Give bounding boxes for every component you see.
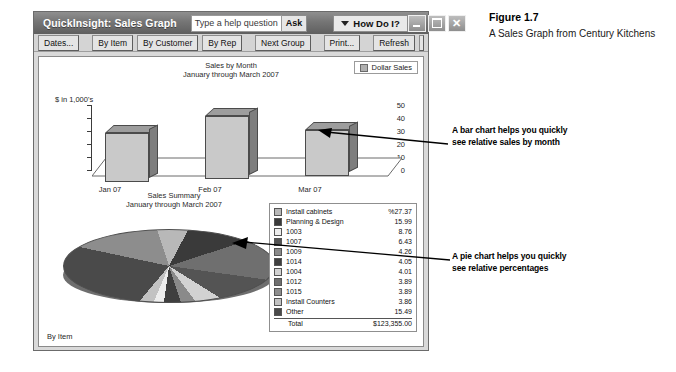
bar-chart-legend[interactable]: Dollar Sales [354, 61, 418, 74]
toolbar-button-next-group[interactable]: Next Group [255, 35, 310, 51]
toolbar-button-by-rep[interactable]: By Rep [202, 35, 242, 51]
legend-item[interactable]: Install cabinets %27.37 [274, 207, 412, 217]
close-icon: ✕ [452, 18, 461, 29]
legend-total-row: Total $123,355.00 [274, 318, 412, 329]
legend-item[interactable]: Other 15.49 [274, 307, 412, 317]
chevron-down-icon [341, 21, 349, 26]
how-do-i-label: How Do I? [353, 18, 399, 29]
figure-number: Figure 1.7 [489, 10, 669, 24]
annotation-pie-line-1: A pie chart helps you quickly [452, 250, 566, 262]
minimize-button[interactable] [408, 15, 426, 32]
bar-front [205, 116, 249, 179]
legend-value: 15.49 [394, 307, 412, 317]
window-title: QuickInsight: Sales Graph [37, 17, 177, 29]
maximize-icon [432, 18, 442, 28]
bar-front [105, 133, 149, 182]
toolbar-button-dates[interactable]: Dates... [38, 35, 79, 51]
annotation-arrow-pie [232, 236, 452, 264]
total-label: Total [274, 319, 373, 329]
toolbar-button-print[interactable]: Print... [324, 35, 361, 51]
toolbar-button-by-customer[interactable]: By Customer [137, 35, 198, 51]
legend-swatch-icon [274, 288, 282, 296]
legend-item[interactable]: 1012 3.89 [274, 277, 412, 287]
legend-label: Planning & Design [286, 217, 394, 227]
legend-label: Install Counters [286, 297, 398, 307]
legend-value: 4.01 [398, 267, 412, 277]
legend-swatch-icon [274, 278, 282, 286]
legend-swatch-icon [274, 228, 282, 236]
y-tick-40: 40 [391, 114, 405, 123]
figure-caption-text: A Sales Graph from Century Kitchens [489, 27, 669, 40]
legend-swatch-icon [274, 218, 282, 226]
bar-chart-panel: Sales by Month January through March 200… [39, 57, 423, 189]
bar-side [249, 108, 258, 175]
bar-side [149, 125, 158, 178]
legend-swatch-icon [360, 64, 368, 72]
legend-item[interactable]: 1004 4.01 [274, 267, 412, 277]
maximize-button[interactable] [428, 15, 446, 32]
pie-chart-subtitle: January through March 2007 [49, 200, 299, 209]
legend-value: 3.89 [398, 277, 412, 287]
annotation-pie-line-2: see relative percentages [452, 262, 566, 274]
y-tick-50: 50 [391, 101, 405, 110]
help-question-input[interactable]: Type a help question [191, 15, 282, 32]
pie-chart-panel: Sales Summary January through March 2007… [39, 189, 423, 345]
legend-swatch-icon [274, 268, 282, 276]
close-button[interactable]: ✕ [448, 15, 466, 32]
ask-button[interactable]: Ask [282, 15, 308, 32]
window-controls: ✕ [408, 15, 468, 32]
legend-label: Install cabinets [286, 207, 388, 217]
toolbar-empty-slot [419, 35, 424, 51]
group-by-label: By Item [47, 332, 72, 341]
title-bar: QuickInsight: Sales Graph Type a help qu… [34, 12, 428, 34]
application-window: QuickInsight: Sales Graph Type a help qu… [33, 11, 429, 351]
pie-chart-title-block: Sales Summary January through March 2007 [49, 189, 299, 209]
toolbar: Dates... By Item By Customer By Rep Next… [34, 34, 428, 52]
annotation-bar-line-2: see relative sales by month [452, 136, 567, 148]
legend-swatch-icon [274, 298, 282, 306]
legend-swatch-icon [274, 208, 282, 216]
minimize-icon [413, 25, 420, 27]
legend-item[interactable]: Planning & Design 15.99 [274, 217, 412, 227]
legend-item[interactable]: Install Counters 3.86 [274, 297, 412, 307]
legend-value: 15.99 [394, 217, 412, 227]
tick-mark [87, 105, 92, 106]
legend-value: 3.89 [398, 287, 412, 297]
legend-item[interactable]: 1015 3.89 [274, 287, 412, 297]
chart-client-area: Sales by Month January through March 200… [38, 56, 424, 347]
pie-chart-title: Sales Summary [49, 191, 299, 200]
legend-value: 3.86 [398, 297, 412, 307]
bar-jan-07[interactable] [105, 133, 149, 182]
annotation-bar-chart: A bar chart helps you quickly see relati… [452, 124, 567, 148]
annotation-bar-line-1: A bar chart helps you quickly [452, 124, 567, 136]
legend-label: 1004 [286, 267, 398, 277]
figure-caption: Figure 1.7 A Sales Graph from Century Ki… [489, 10, 669, 40]
legend-label: Other [286, 307, 394, 317]
toolbar-button-refresh[interactable]: Refresh [373, 35, 415, 51]
total-value: $123,355.00 [373, 319, 412, 329]
annotation-arrow-bar [318, 126, 450, 148]
how-do-i-button[interactable]: How Do I? [333, 15, 407, 32]
tick-mark [87, 131, 92, 132]
legend-label-dollar-sales: Dollar Sales [372, 63, 412, 72]
legend-label: 1012 [286, 277, 398, 287]
tick-mark [87, 144, 92, 145]
pie-chart-legend: Install cabinets %27.37 Planning & Desig… [269, 203, 417, 332]
bar-chart-y-axis-label: $ in 1,000's [55, 95, 93, 104]
legend-swatch-icon [274, 308, 282, 316]
tick-mark [87, 118, 92, 119]
toolbar-button-by-item[interactable]: By Item [92, 35, 133, 51]
bar-feb-07[interactable] [205, 116, 249, 179]
annotation-pie-chart: A pie chart helps you quickly see relati… [452, 250, 566, 274]
legend-value: %27.37 [388, 207, 412, 217]
legend-label: 1015 [286, 287, 398, 297]
